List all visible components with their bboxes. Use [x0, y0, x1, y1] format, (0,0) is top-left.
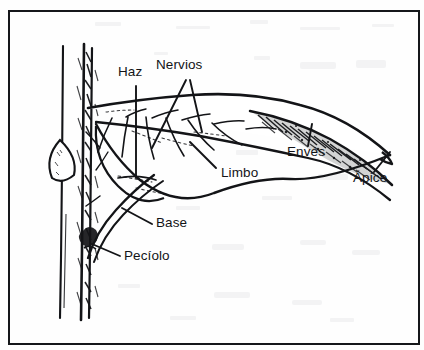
label-enves: Envés [287, 145, 325, 159]
bud-group [49, 140, 74, 181]
leader-limbo [190, 142, 216, 168]
label-apice: Ápice [353, 171, 387, 185]
label-base: Base [156, 216, 187, 230]
label-haz: Haz [118, 65, 142, 79]
figure-page: Haz Nervios Limbo Envés Ápice Base Pecío… [0, 0, 424, 350]
label-limbo: Limbo [221, 166, 258, 180]
leader-base [122, 208, 152, 224]
label-peciolo: Pecíolo [124, 249, 170, 263]
stem-group [60, 44, 98, 320]
label-nervios: Nervios [156, 58, 202, 72]
